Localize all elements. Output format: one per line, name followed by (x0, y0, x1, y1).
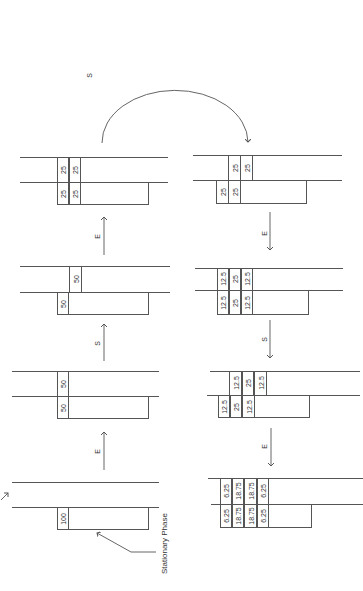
cell-value: 25 (72, 166, 79, 174)
cell-value: 25 (60, 166, 67, 174)
upper-phase-top-line (193, 155, 342, 156)
cell-value: 50 (60, 404, 67, 412)
lower-cell: 25 (69, 182, 81, 205)
lower-cell: 6.25 (220, 504, 232, 528)
upper-cell: 12.5 (217, 268, 229, 290)
upper-cell: 25 (242, 371, 254, 395)
cell-value: 12.5 (244, 272, 251, 286)
s-transfer-arc (102, 90, 248, 143)
cell-value: 12.5 (257, 376, 264, 390)
transition-label-1: E (94, 449, 101, 454)
stationary-phase-label: Stationary Phase (160, 513, 169, 574)
arc-label: S (86, 73, 93, 78)
upper-phase-top-line (12, 482, 159, 483)
lower-cell: 18.75 (232, 504, 244, 528)
cell-value: 18.75 (247, 507, 254, 525)
upper-cell: 6.25 (257, 478, 269, 504)
lower-cell: 12.5 (218, 395, 230, 418)
transition-label-3: E (94, 234, 101, 239)
lower-cell: 50 (57, 292, 69, 315)
upper-cell: 25 (57, 157, 69, 182)
upper-cell: 25 (229, 268, 241, 290)
cell-value: 50 (60, 380, 67, 388)
lower-cell: 12.5 (241, 290, 253, 315)
cell-value: 6.25 (223, 509, 230, 523)
cell-value: 18.75 (247, 482, 254, 500)
transition-label-7: E (261, 444, 268, 449)
cell-value: 18.75 (235, 482, 242, 500)
cell-value: 25 (231, 164, 238, 172)
lower-phase-box (57, 292, 149, 315)
lower-phase-box (57, 396, 149, 419)
lower-cell: 18.75 (244, 504, 257, 528)
lower-cell: 6.25 (257, 504, 269, 528)
upper-phase-top-line (20, 266, 170, 267)
cell-value: 25 (60, 190, 67, 198)
transition-label-6: S (261, 337, 268, 342)
cell-value: 25 (231, 188, 238, 196)
upper-cell: 12.5 (229, 371, 242, 395)
cell-value: 12.5 (245, 400, 252, 414)
cell-value: 25 (232, 299, 239, 307)
cell-value: 18.75 (235, 507, 242, 525)
upper-cell: 50 (69, 266, 82, 292)
upper-cell: 18.75 (232, 478, 244, 504)
cell-value: 12.5 (244, 296, 251, 310)
mobile-phase-arrow (1, 493, 8, 500)
cell-value: 25 (232, 275, 239, 283)
lower-cell: 25 (230, 395, 242, 418)
upper-cell: 6.25 (220, 478, 232, 504)
cell-value: 6.25 (223, 484, 230, 498)
cell-value: 12.5 (221, 400, 228, 414)
cell-value: 12.5 (220, 272, 227, 286)
upper-cell: 18.75 (244, 478, 257, 504)
cell-value: 12.5 (220, 296, 227, 310)
transition-label-5: E (261, 231, 268, 236)
lower-cell: 100 (57, 507, 69, 530)
cell-value: 6.25 (260, 484, 267, 498)
upper-cell: 50 (57, 371, 69, 396)
upper-cell: 25 (240, 155, 253, 180)
lower-cell: 12.5 (217, 290, 229, 315)
lower-phase-box (57, 507, 149, 530)
cell-value: 25 (233, 403, 240, 411)
lower-cell: 25 (57, 182, 69, 205)
cell-value: 6.25 (260, 509, 267, 523)
upper-cell: 12.5 (241, 268, 253, 290)
transition-label-2: S (94, 341, 101, 346)
cell-value: 25 (245, 379, 252, 387)
lower-cell: 25 (228, 180, 241, 204)
cell-value: 50 (60, 300, 67, 308)
cell-value: 25 (243, 164, 250, 172)
lower-cell: 25 (229, 290, 241, 315)
stationary-phase-leader (97, 533, 156, 552)
lower-cell: 12.5 (242, 395, 255, 418)
upper-cell: 12.5 (254, 371, 267, 395)
cell-value: 100 (60, 513, 67, 525)
upper-cell: 25 (69, 157, 81, 182)
cell-value: 25 (72, 190, 79, 198)
upper-phase-top-line (12, 371, 159, 372)
upper-phase-top-line (20, 157, 168, 158)
cell-value: 50 (72, 275, 79, 283)
cell-value: 12.5 (232, 376, 239, 390)
cell-value: 25 (219, 188, 226, 196)
lower-cell: 50 (57, 396, 69, 419)
